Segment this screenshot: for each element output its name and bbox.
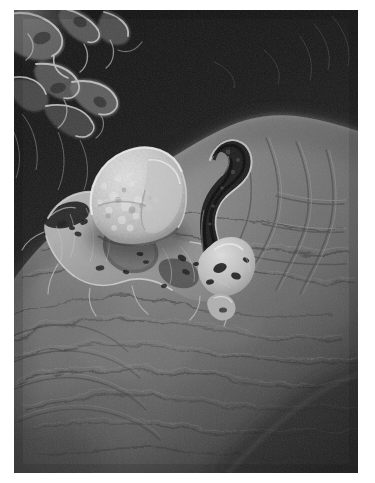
film-grain-fine — [14, 10, 358, 473]
micrograph-plate — [14, 10, 358, 473]
page-root — [0, 0, 375, 483]
plate-caption — [14, 475, 358, 483]
micrograph-canvas — [14, 10, 358, 473]
